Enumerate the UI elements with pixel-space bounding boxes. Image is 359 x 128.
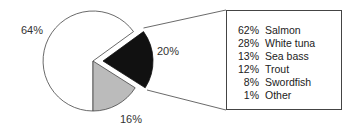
label-64: 64%	[21, 24, 43, 36]
breakdown-row: 28%White tuna	[235, 37, 315, 49]
connector-bottom	[147, 90, 226, 110]
label-16: 16%	[120, 113, 142, 125]
breakdown-row: 8%Swordfish	[235, 76, 311, 88]
row-name: Other	[265, 89, 291, 101]
breakdown-row: 12%Trout	[235, 63, 289, 75]
row-name: Trout	[265, 63, 289, 75]
row-pct: 28%	[235, 37, 259, 49]
breakdown-box: 62%Salmon 28%White tuna 13%Sea bass 12%T…	[226, 10, 342, 110]
row-name: Swordfish	[265, 76, 311, 88]
row-pct: 1%	[235, 89, 259, 101]
row-pct: 8%	[235, 76, 259, 88]
label-20: 20%	[157, 45, 179, 57]
breakdown-row: 1%Other	[235, 89, 291, 101]
connector-top	[144, 10, 227, 28]
breakdown-row: 62%Salmon	[235, 24, 301, 36]
row-name: White tuna	[265, 37, 315, 49]
row-pct: 12%	[235, 63, 259, 75]
row-name: Sea bass	[265, 50, 309, 62]
breakdown-row: 13%Sea bass	[235, 50, 309, 62]
row-name: Salmon	[265, 24, 301, 36]
row-pct: 62%	[235, 24, 259, 36]
row-pct: 13%	[235, 50, 259, 62]
